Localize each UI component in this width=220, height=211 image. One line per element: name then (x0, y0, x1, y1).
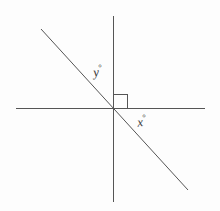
angle-label-y: y° (92, 63, 103, 78)
geometry-figure: y° x° (0, 0, 220, 211)
angle-label-x: x° (136, 113, 147, 128)
right-angle-square-icon (113, 94, 127, 108)
diagonal-transversal-line (41, 29, 188, 190)
geometry-canvas (0, 0, 220, 211)
